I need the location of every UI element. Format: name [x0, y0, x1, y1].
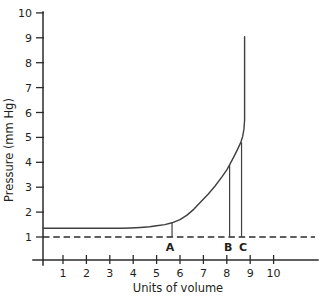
chart-canvas: 12345678910 12345678910 ABC Units of vol… [0, 0, 326, 304]
y-tick-label-9: 9 [25, 32, 32, 45]
y-tick-label-3: 3 [25, 181, 32, 194]
x-tick-label-4: 4 [130, 267, 137, 280]
x-tick-label-3: 3 [106, 267, 113, 280]
axes [33, 12, 318, 265]
y-axis-ticks: 12345678910 [18, 7, 44, 244]
pv-curve [43, 37, 245, 229]
x-tick-label-8: 8 [223, 267, 230, 280]
y-tick-label-2: 2 [25, 206, 32, 219]
x-tick-label-10: 10 [267, 267, 281, 280]
y-tick-label-5: 5 [25, 131, 32, 144]
y-axis-title: Pressure (mm Hg) [2, 98, 16, 202]
x-tick-label-7: 7 [200, 267, 207, 280]
x-tick-label-1: 1 [60, 267, 67, 280]
y-tick-label-8: 8 [25, 57, 32, 70]
y-tick-label-7: 7 [25, 82, 32, 95]
x-axis-ticks: 12345678910 [60, 255, 281, 280]
x-axis-title: Units of volume [133, 281, 223, 295]
marker-label-A: A [166, 241, 175, 254]
y-tick-label-10: 10 [18, 7, 32, 20]
marker-label-B: B [224, 241, 232, 254]
x-tick-label-5: 5 [153, 267, 160, 280]
x-tick-label-2: 2 [83, 267, 90, 280]
marker-label-C: C [239, 241, 247, 254]
x-tick-label-9: 9 [247, 267, 254, 280]
y-tick-label-4: 4 [25, 156, 32, 169]
y-tick-label-1: 1 [25, 231, 32, 244]
x-tick-label-6: 6 [177, 267, 184, 280]
pressure-volume-chart: 12345678910 12345678910 ABC Units of vol… [0, 0, 326, 304]
y-tick-label-6: 6 [25, 107, 32, 120]
